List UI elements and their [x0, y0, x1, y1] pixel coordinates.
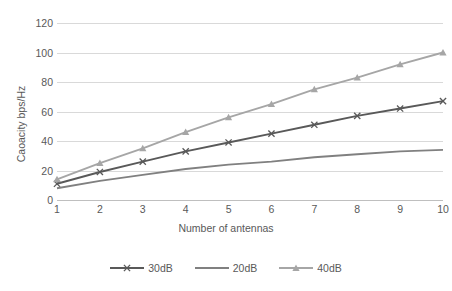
- x-tick-label: 8: [342, 204, 372, 215]
- legend-swatch-30dB: [110, 262, 144, 274]
- y-tick-label: 40: [7, 136, 53, 147]
- legend-label: 40dB: [317, 263, 342, 274]
- y-tick-label: 60: [7, 107, 53, 118]
- y-tick-label: 100: [7, 48, 53, 59]
- y-tick-label: 20: [7, 166, 53, 177]
- x-tick-label: 9: [385, 204, 415, 215]
- legend-item-30dB[interactable]: 30dB: [110, 262, 173, 274]
- legend-swatch-20dB: [195, 262, 229, 274]
- chart-legend: 30dB20dB40dB: [0, 262, 452, 274]
- capacity-line-chart: 020406080100120 Caoacity bps/Hz 12345678…: [0, 0, 452, 291]
- legend-label: 30dB: [148, 263, 173, 274]
- x-tick-label: 10: [428, 204, 452, 215]
- x-tick-label: 5: [214, 204, 244, 215]
- data-point-marker: [439, 49, 446, 56]
- x-tick-label: 7: [299, 204, 329, 215]
- y-tick-label: 120: [7, 18, 53, 29]
- plot-area: [57, 23, 443, 200]
- y-axis-title: Caoacity bps/Hz: [15, 59, 27, 189]
- legend-item-40dB[interactable]: 40dB: [279, 262, 342, 274]
- x-axis-ticks: 12345678910: [57, 204, 443, 218]
- legend-label: 20dB: [233, 263, 258, 274]
- legend-item-20dB[interactable]: 20dB: [195, 262, 258, 274]
- series-layer: [57, 23, 443, 200]
- x-tick-label: 3: [128, 204, 158, 215]
- x-tick-label: 1: [42, 204, 72, 215]
- x-tick-label: 4: [171, 204, 201, 215]
- legend-swatch-40dB: [279, 262, 313, 274]
- series-line: [57, 53, 443, 180]
- series-line: [57, 101, 443, 184]
- x-tick-label: 6: [256, 204, 286, 215]
- y-tick-label: 80: [7, 77, 53, 88]
- x-axis-title: Number of antennas: [0, 222, 452, 234]
- gridline: [57, 200, 443, 201]
- x-tick-label: 2: [85, 204, 115, 215]
